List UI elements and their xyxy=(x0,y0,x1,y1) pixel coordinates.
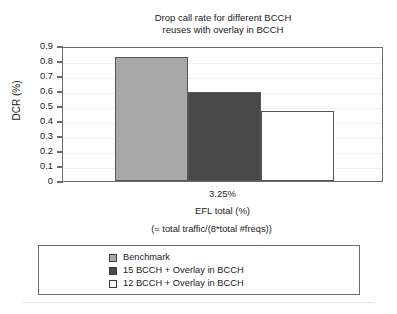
y-tick-label: 0.3 xyxy=(40,132,53,141)
legend-label: Benchmark xyxy=(123,253,170,262)
y-tick-label: 0 xyxy=(48,177,53,186)
bar xyxy=(261,111,334,182)
legend-swatch xyxy=(109,280,117,288)
y-tick-label: 0.1 xyxy=(40,162,53,171)
bar xyxy=(115,57,188,181)
y-tick-label: 0.2 xyxy=(40,147,53,156)
legend-swatch xyxy=(109,254,117,262)
page-artifact-line xyxy=(22,302,374,303)
legend-box: Benchmark15 BCCH + Overlay in BCCH12 BCC… xyxy=(38,245,360,295)
y-tick-label: 0.9 xyxy=(40,42,53,51)
chart-figure: Drop call rate for different BCCH reuses… xyxy=(0,0,397,314)
legend-item: 12 BCCH + Overlay in BCCH xyxy=(109,277,244,290)
x-axis-subtitle: (= total traffic/(8*total #freqs)) xyxy=(40,224,383,234)
legend-label: 15 BCCH + Overlay in BCCH xyxy=(123,266,244,275)
y-tick-label: 0.6 xyxy=(40,87,53,96)
x-axis-category-label: 3.25% xyxy=(62,188,383,199)
chart-title: Drop call rate for different BCCH reuses… xyxy=(62,12,384,35)
y-tick-label: 0.7 xyxy=(40,72,53,81)
legend-item: Benchmark xyxy=(109,251,244,264)
y-tick-label: 0.5 xyxy=(40,102,53,111)
plot-area xyxy=(62,47,383,182)
legend-item: 15 BCCH + Overlay in BCCH xyxy=(109,264,244,277)
legend-label: 12 BCCH + Overlay in BCCH xyxy=(123,279,244,288)
legend-items: Benchmark15 BCCH + Overlay in BCCH12 BCC… xyxy=(109,251,244,290)
x-axis-title: EFL total (%) xyxy=(62,205,383,216)
y-tick-label: 0.8 xyxy=(40,57,53,66)
y-axis-title: DCR (%) xyxy=(11,71,22,131)
y-axis-tick-labels: 0.90.80.70.60.50.40.30.20.10 xyxy=(22,47,53,182)
bar xyxy=(188,92,261,181)
y-tick-label: 0.4 xyxy=(40,117,53,126)
legend-swatch xyxy=(109,267,117,275)
bar-group xyxy=(63,48,382,181)
